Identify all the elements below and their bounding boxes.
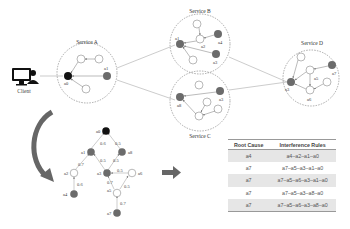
rule-cell: a7–a5–a3–a8–a0 bbox=[269, 187, 336, 199]
svg-text:0.5: 0.5 bbox=[100, 158, 106, 163]
header-interference-rules: Interference Rules bbox=[269, 140, 336, 150]
graph-node-a7 bbox=[113, 209, 121, 217]
node-a0 bbox=[64, 72, 72, 80]
svg-text:0.5: 0.5 bbox=[117, 168, 123, 173]
svg-text:0.7: 0.7 bbox=[120, 201, 126, 206]
dependency-graph: 0.6 0.5 0.7 0.5 0.5 0.5 0.6 0.7 0.5 0.7 … bbox=[63, 127, 143, 217]
graph-node-a1 bbox=[87, 148, 95, 156]
graph-node-a8 bbox=[118, 148, 126, 156]
svg-text:a1: a1 bbox=[175, 36, 179, 41]
root-cause-cell: a7 bbox=[228, 162, 269, 174]
svg-text:a1: a1 bbox=[81, 150, 85, 155]
table-row: a7 a7–a5–a6–a3–a1–a0 bbox=[228, 174, 336, 186]
svg-text:a8: a8 bbox=[177, 103, 182, 108]
table-row: a4 a4–a2–a1–a0 bbox=[228, 150, 336, 163]
service-a-label: Service A bbox=[76, 39, 98, 45]
svg-text:0.5: 0.5 bbox=[115, 141, 121, 146]
root-cause-cell: a4 bbox=[228, 150, 269, 163]
svg-text:a5: a5 bbox=[107, 188, 112, 193]
graph-node-a4 bbox=[70, 190, 78, 198]
svg-text:0.5: 0.5 bbox=[124, 184, 130, 189]
right-arrow-icon bbox=[162, 166, 181, 179]
table-row: a7 a7–a5–a3–a8–a0 bbox=[228, 187, 336, 199]
table-row: a7 a7–a5–a6–a3–a8–a0 bbox=[228, 199, 336, 212]
svg-text:a3: a3 bbox=[97, 171, 102, 176]
service-b: Service B a2 a4 a1 a3 bbox=[170, 8, 230, 74]
svg-text:0.7: 0.7 bbox=[107, 180, 113, 185]
service-d: Service D a3 a5 a7 a6 bbox=[283, 40, 339, 106]
interference-rules-table: Root Cause Interference Rules a4 a4–a2–a… bbox=[228, 139, 336, 212]
interference-rules-table-container: Root Cause Interference Rules a4 a4–a2–a… bbox=[228, 139, 336, 212]
service-b-label: Service B bbox=[189, 8, 211, 14]
svg-text:0.6: 0.6 bbox=[77, 182, 83, 187]
rule-cell: a7–a5–a6–a3–a8–a0 bbox=[269, 199, 336, 212]
svg-text:a2: a2 bbox=[64, 171, 68, 176]
client-icon bbox=[12, 68, 39, 86]
root-cause-cell: a7 bbox=[228, 199, 269, 212]
svg-text:a2: a2 bbox=[201, 44, 205, 49]
svg-text:0.5: 0.5 bbox=[113, 158, 119, 163]
svg-text:a4: a4 bbox=[63, 192, 68, 197]
root-cause-cell: a7 bbox=[228, 174, 269, 186]
rule-cell: a7–a5–a3–a1–a0 bbox=[269, 162, 336, 174]
svg-text:a3: a3 bbox=[285, 87, 290, 92]
curved-arrow-icon bbox=[34, 112, 52, 176]
table-row: a7 a7–a5–a3–a1–a0 bbox=[228, 162, 336, 174]
svg-text:a6: a6 bbox=[138, 171, 143, 176]
graph-node-a6 bbox=[128, 169, 136, 177]
table-header-row: Root Cause Interference Rules bbox=[228, 140, 336, 150]
svg-text:a5: a5 bbox=[314, 76, 319, 81]
graph-node-a2 bbox=[70, 169, 78, 177]
svg-text:a4: a4 bbox=[218, 40, 223, 45]
client-label: Client bbox=[17, 88, 31, 94]
rule-cell: a7–a5–a6–a3–a1–a0 bbox=[269, 174, 336, 186]
svg-text:a7: a7 bbox=[107, 211, 112, 216]
svg-text:a8: a8 bbox=[128, 150, 133, 155]
svg-text:a3: a3 bbox=[213, 60, 218, 65]
service-c-label: Service C bbox=[189, 133, 211, 139]
root-cause-cell: a7 bbox=[228, 187, 269, 199]
svg-text:0.7: 0.7 bbox=[78, 162, 84, 167]
svg-text:a6: a6 bbox=[307, 97, 312, 102]
service-a: Service A a0 a1 bbox=[57, 39, 117, 103]
rule-cell: a4–a2–a1–a0 bbox=[269, 150, 336, 163]
header-root-cause: Root Cause bbox=[228, 140, 269, 150]
graph-node-a0 bbox=[102, 127, 110, 135]
node-a1 bbox=[103, 72, 111, 80]
graph-node-a5 bbox=[113, 189, 121, 197]
svg-text:a1: a1 bbox=[104, 66, 108, 71]
service-c: Service C a8 a3 bbox=[170, 71, 230, 139]
svg-text:a0: a0 bbox=[96, 129, 101, 134]
svg-text:a0: a0 bbox=[64, 81, 69, 86]
svg-text:a3: a3 bbox=[219, 97, 224, 102]
svg-text:0.6: 0.6 bbox=[100, 141, 106, 146]
svg-text:a7: a7 bbox=[332, 71, 337, 76]
graph-node-a3 bbox=[103, 169, 111, 177]
service-d-label: Service D bbox=[301, 40, 323, 46]
